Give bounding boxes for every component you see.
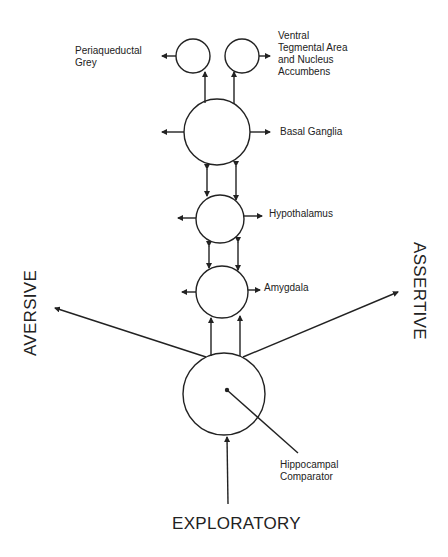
- label-hippocampal-comparator: Hippocampal Comparator: [280, 459, 338, 483]
- label-hypothalamus: Hypothalamus: [269, 208, 333, 220]
- axis-label-assertive: ASSERTIVE: [409, 242, 429, 340]
- node-ventral-tegmental-area: [225, 39, 259, 73]
- label-line: Grey: [75, 57, 142, 69]
- label-periaqueductal-grey: Periaqueductal Grey: [75, 45, 142, 69]
- label-line: Periaqueductal: [75, 45, 142, 57]
- comparator-pointer-line: [227, 390, 298, 453]
- comparator-dot: [225, 388, 229, 392]
- node-hypothalamus: [196, 195, 244, 243]
- arrow-exploratory: [227, 437, 228, 504]
- label-line: Comparator: [280, 471, 338, 483]
- diagram-canvas: [0, 0, 448, 557]
- label-amygdala: Amygdala: [264, 282, 308, 294]
- label-basal-ganglia: Basal Ganglia: [280, 126, 342, 138]
- label-ventral-tegmental-area: Ventral Tegmental Area and Nucleus Accum…: [278, 30, 348, 78]
- arrow-aversive: [55, 308, 206, 357]
- axis-label-exploratory: EXPLORATORY: [172, 514, 301, 534]
- label-line: Accumbens: [278, 66, 348, 78]
- node-hippocampal-comparator: [183, 353, 265, 435]
- node-basal-ganglia: [184, 99, 250, 165]
- node-periaqueductal-grey: [176, 39, 210, 73]
- arrow-assertive: [243, 292, 398, 357]
- label-line: Tegmental Area: [278, 42, 348, 54]
- node-amygdala: [196, 266, 248, 318]
- label-line: Hippocampal: [280, 459, 338, 471]
- axis-label-aversive: AVERSIVE: [21, 270, 41, 356]
- label-line: and Nucleus: [278, 54, 348, 66]
- label-line: Ventral: [278, 30, 348, 42]
